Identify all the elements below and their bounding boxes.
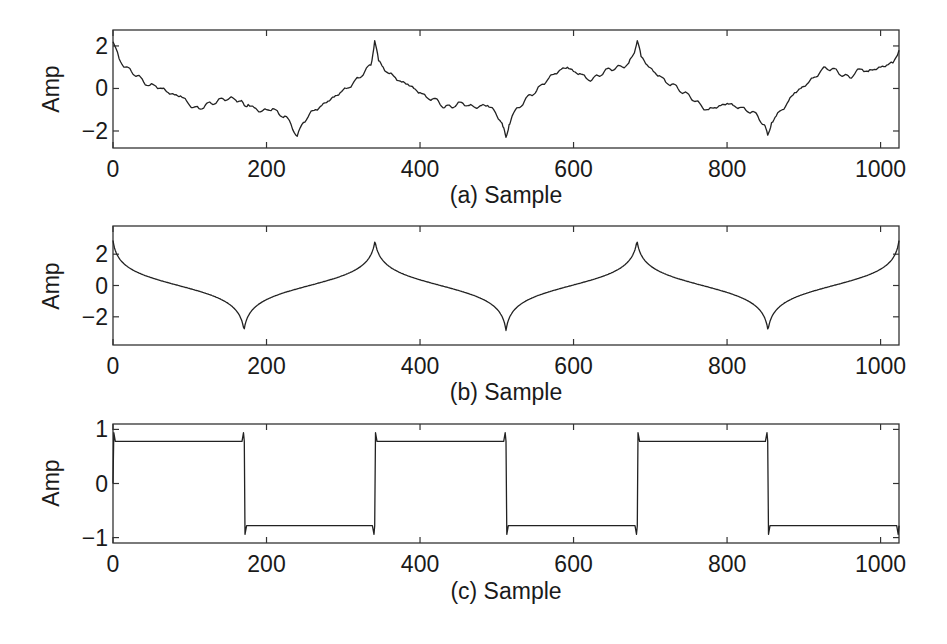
x-tick-label: 800 <box>708 353 746 379</box>
y-tick-label: 1 <box>95 416 108 442</box>
panel-a-frame <box>113 30 899 148</box>
panel-c-y-axis-title: Amp <box>38 459 64 506</box>
panel-c-x-axis-title: (c) Sample <box>450 578 561 604</box>
panel-b-trace <box>113 241 899 331</box>
panel-a: 02004006008001000 20−2 Amp (a) Sample <box>38 30 906 208</box>
panel-a-x-axis-title: (a) Sample <box>450 182 562 208</box>
panel-a-y-axis-title: Amp <box>38 65 64 112</box>
y-tick-label: 0 <box>95 471 108 497</box>
y-tick-label: 0 <box>95 75 108 101</box>
figure: 02004006008001000 20−2 Amp (a) Sample 02… <box>0 0 947 644</box>
panel-b-y-axis-title: Amp <box>38 262 64 309</box>
panel-c-trace <box>113 433 899 535</box>
x-tick-label: 0 <box>107 353 120 379</box>
y-tick-label: −1 <box>82 525 108 551</box>
y-tick-label: −2 <box>82 304 108 330</box>
panel-c: 02004006008001000 10−1 Amp (c) Sample <box>38 416 906 604</box>
panel-b: 02004006008001000 20−2 Amp (b) Sample <box>38 226 906 405</box>
x-tick-label: 200 <box>247 353 285 379</box>
x-tick-label: 400 <box>401 551 439 577</box>
x-tick-label: 1000 <box>855 551 906 577</box>
panel-b-x-axis-title: (b) Sample <box>450 379 562 405</box>
x-tick-label: 800 <box>708 156 746 182</box>
y-tick-label: 0 <box>95 273 108 299</box>
x-tick-label: 400 <box>401 353 439 379</box>
panel-b-y-ticks: 20−2 <box>82 241 899 330</box>
x-tick-label: 1000 <box>855 353 906 379</box>
y-tick-label: 2 <box>95 33 108 59</box>
x-tick-label: 600 <box>554 551 592 577</box>
panel-a-y-ticks: 20−2 <box>82 33 899 144</box>
x-tick-label: 600 <box>554 156 592 182</box>
x-tick-label: 600 <box>554 353 592 379</box>
x-tick-label: 0 <box>107 551 120 577</box>
y-tick-label: −2 <box>82 118 108 144</box>
panel-c-y-ticks: 10−1 <box>82 416 899 550</box>
x-tick-label: 400 <box>401 156 439 182</box>
x-tick-label: 200 <box>247 156 285 182</box>
panel-a-trace <box>113 41 899 138</box>
x-tick-label: 0 <box>107 156 120 182</box>
x-tick-label: 1000 <box>855 156 906 182</box>
x-tick-label: 800 <box>708 551 746 577</box>
x-tick-label: 200 <box>247 551 285 577</box>
y-tick-label: 2 <box>95 241 108 267</box>
